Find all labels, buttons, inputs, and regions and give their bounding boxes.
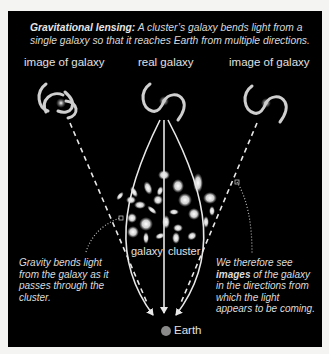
label-earth: Earth	[174, 324, 202, 336]
label-galaxy: galaxy	[131, 245, 163, 257]
galaxy-left-image-icon	[39, 84, 76, 118]
label-cluster: cluster	[168, 245, 200, 257]
earth-icon	[161, 326, 171, 336]
note-right: We therefore see images of the galaxy in…	[216, 257, 318, 315]
note-right-bold: images	[216, 269, 250, 280]
pointer-left	[86, 218, 120, 252]
galaxy-right-image-icon	[245, 86, 286, 122]
note-right-pre: We therefore see	[216, 257, 293, 268]
galaxy-real-icon	[143, 84, 184, 120]
note-left: Gravity bends light from the galaxy as i…	[19, 257, 119, 303]
pointer-right	[237, 182, 252, 253]
